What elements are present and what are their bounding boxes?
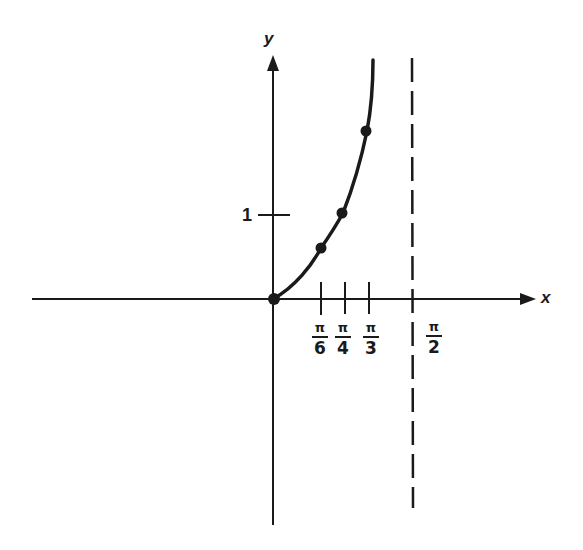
y-tick-label-1: 1 xyxy=(242,206,252,224)
numerator: π xyxy=(424,320,444,334)
y-axis-arrow-icon xyxy=(267,55,279,71)
numerator: π xyxy=(361,321,381,335)
numerator: π xyxy=(333,321,353,335)
x-tick-label-pi-4: π 4 xyxy=(333,321,353,357)
point-origin xyxy=(268,293,280,305)
point-pi-6 xyxy=(316,243,327,254)
tangent-graph xyxy=(0,0,583,550)
denominator: 2 xyxy=(424,339,444,356)
x-tick-label-pi-3: π 3 xyxy=(361,321,381,357)
x-axis-label: x xyxy=(541,289,550,306)
denominator: 6 xyxy=(310,340,330,357)
denominator: 4 xyxy=(333,340,353,357)
asymptote-line xyxy=(412,58,413,508)
numerator: π xyxy=(310,321,330,335)
x-tick-label-pi-6: π 6 xyxy=(310,321,330,357)
y-axis-label: y xyxy=(264,30,273,47)
asymptote-label-pi-2: π 2 xyxy=(424,320,444,356)
tan-curve xyxy=(273,60,373,299)
x-axis-arrow-icon xyxy=(520,293,536,305)
point-pi-4 xyxy=(337,208,348,219)
point-pi-3 xyxy=(361,126,372,137)
denominator: 3 xyxy=(361,340,381,357)
